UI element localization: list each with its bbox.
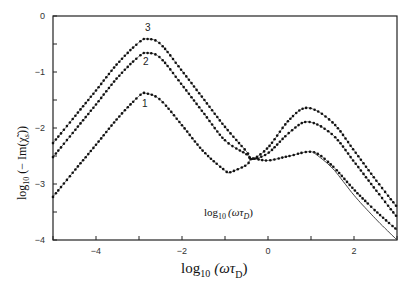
y-tick-label: −1	[35, 67, 45, 77]
y-tick-label: −3	[35, 179, 45, 189]
y-tick-label: −2	[35, 123, 45, 133]
series-layer	[52, 38, 398, 240]
curve-label-3: 3	[145, 22, 151, 33]
y-axis-title: log10(− Im(χ̃s))	[15, 126, 31, 200]
y-tick-label: −4	[35, 235, 45, 245]
curve-label-2: 2	[143, 56, 149, 67]
x-tick-label: 2	[351, 246, 356, 256]
y-tick-labels: 0−1−2−3−4	[35, 11, 45, 245]
curve-labels: 3 2 1	[142, 22, 151, 109]
x-tick-labels: −4−202	[91, 246, 357, 256]
series-1	[52, 92, 397, 230]
x-tick-label: 0	[265, 246, 270, 256]
curve-label-1: 1	[142, 98, 148, 109]
x-axis-title: log10(ωτD)	[181, 260, 247, 280]
series-3	[52, 38, 398, 207]
y-tick-label: 0	[40, 11, 45, 21]
x-tick-label: −4	[91, 246, 101, 256]
chart-canvas: −4−202 0−1−2−3−4 3 2 1 log10(ωτD) log10(…	[0, 0, 409, 298]
inner-annotation: log10(ωτD)	[204, 206, 253, 221]
x-tick-label: −2	[177, 246, 187, 256]
series-1-asymptote-	[313, 152, 397, 240]
